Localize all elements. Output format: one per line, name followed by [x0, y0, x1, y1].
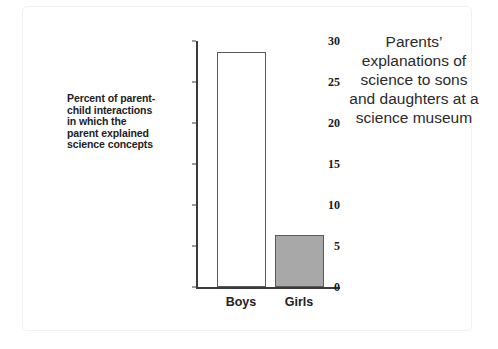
y-tick-mark: [192, 246, 196, 247]
y-tick-label: 20: [310, 116, 340, 131]
y-axis-label: Percent of parent-child interactions in …: [67, 93, 159, 151]
chart-figure: Percent of parent-child interactions in …: [0, 0, 498, 349]
y-tick-label: 25: [310, 75, 340, 90]
y-tick-mark: [192, 164, 196, 165]
y-tick-mark: [192, 287, 196, 288]
x-label-girls: Girls: [285, 295, 314, 309]
y-tick-label: 10: [310, 198, 340, 213]
bar-boys: [217, 52, 266, 287]
y-tick-label: 15: [310, 157, 340, 172]
chart-title: Parents’ explanations of science to sons…: [346, 32, 482, 127]
plot-area: 051015202530 BoysGirls: [160, 30, 340, 320]
y-tick-label: 30: [310, 34, 340, 49]
y-tick-mark: [192, 41, 196, 42]
bar-girls: [275, 235, 324, 287]
y-tick-mark: [192, 123, 196, 124]
y-axis-line: [196, 41, 198, 289]
y-tick-mark: [192, 205, 196, 206]
y-tick-mark: [192, 82, 196, 83]
x-label-boys: Boys: [226, 295, 257, 309]
